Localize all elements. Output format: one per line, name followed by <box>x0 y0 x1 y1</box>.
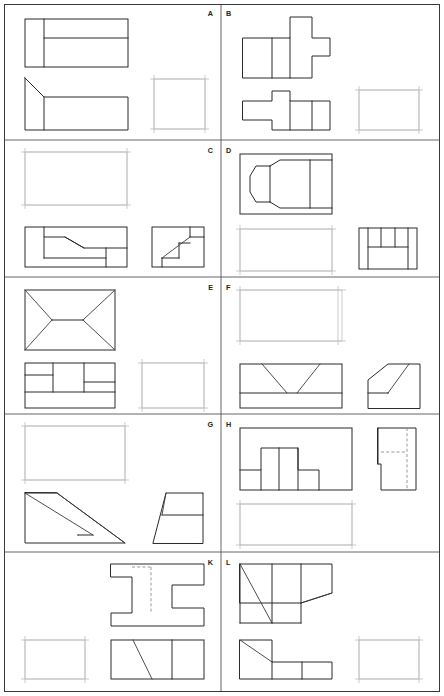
cell-A-top-view <box>25 19 128 67</box>
cell-B: B <box>226 9 423 134</box>
cell-C: C <box>21 146 213 267</box>
cell-L-top-view <box>240 564 332 623</box>
cell-H-top-view <box>240 428 352 490</box>
cell-C-front-view <box>25 227 127 267</box>
cell-D-construction-grid <box>236 225 336 275</box>
drawing-canvas: A B <box>0 0 444 696</box>
cell-H-construction-grid <box>236 500 356 549</box>
cell-E-construction-grid <box>138 359 208 412</box>
cell-F-side-view <box>368 364 420 408</box>
cell-K-front-view <box>111 640 204 679</box>
cell-G: G <box>21 420 213 543</box>
cell-D-top-view <box>240 154 332 214</box>
cell-K-construction-grid <box>21 636 89 683</box>
cell-letter-A: A <box>208 9 213 18</box>
cell-L-front-view <box>240 640 332 679</box>
cell-C-side-view <box>152 227 204 267</box>
cell-H-side-view <box>378 428 416 490</box>
cell-letter-G: G <box>207 420 213 429</box>
cell-F: F <box>226 283 420 408</box>
cell-E-top-view <box>25 290 115 350</box>
cell-letter-L: L <box>226 558 231 567</box>
sheet-border <box>5 5 440 692</box>
cell-letter-K: K <box>208 558 214 567</box>
cell-A: A <box>25 9 213 133</box>
cell-letter-B: B <box>226 9 231 18</box>
cell-K: K <box>21 558 214 683</box>
cell-C-construction-grid <box>21 148 131 209</box>
cell-letter-E: E <box>208 283 213 292</box>
cell-letter-C: C <box>208 146 213 155</box>
cell-B-construction-grid <box>355 86 423 134</box>
cell-L: L <box>226 558 423 683</box>
cell-K-top-view <box>111 564 204 626</box>
cell-F-construction-grid <box>236 286 346 345</box>
exercise-sheet: A B <box>0 0 444 696</box>
cell-E: E <box>25 283 213 412</box>
cell-G-construction-grid <box>21 422 129 484</box>
cell-L-construction-grid <box>355 636 423 683</box>
cell-G-front-view <box>25 493 125 543</box>
cell-A-construction-grid <box>150 75 209 133</box>
cell-letter-D: D <box>226 146 231 155</box>
cell-E-front-view <box>25 363 115 408</box>
cell-B-top-view <box>243 17 330 78</box>
cell-letter-F: F <box>226 283 231 292</box>
cell-F-front-view <box>240 364 342 408</box>
cell-letter-H: H <box>226 420 231 429</box>
cell-H: H <box>226 420 416 549</box>
cell-D-side-view <box>359 228 417 269</box>
cell-D: D <box>226 146 417 275</box>
cell-A-front-view <box>25 78 128 130</box>
cell-B-front-view <box>243 91 330 130</box>
cell-G-side-view <box>153 493 203 543</box>
